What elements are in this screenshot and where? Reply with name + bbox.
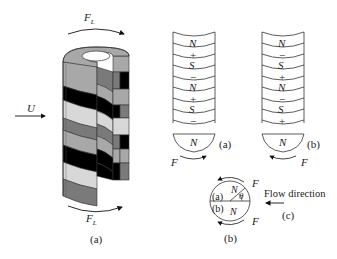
lift-force-bottom-arrow: [68, 206, 122, 212]
circle-lower-tag: (b): [212, 203, 224, 214]
figure-b-caption: (b): [224, 233, 237, 244]
stack-a-pole-label: S: [189, 60, 195, 71]
circle-force-top-label: F: [252, 178, 259, 189]
stack-a-caption: (a): [219, 139, 231, 150]
stack-b-caption: (b): [307, 139, 320, 150]
stack-b-pole-label: N: [278, 38, 285, 49]
stack-b-pole-label: S: [278, 104, 284, 115]
circle-lower-pole: N: [230, 206, 237, 217]
stack-b-bottom-pole: N: [279, 137, 286, 148]
circle-upper-tag: (a): [212, 191, 223, 202]
stack-b-sign-label: +: [279, 116, 285, 127]
stack-b-pole-label: S: [278, 60, 284, 71]
stack-a-force-label: F: [171, 157, 178, 168]
flow-direction-label: Flow direction: [264, 188, 326, 199]
stack-a-pole-label: N: [189, 82, 196, 93]
stack-a-sign-label: −: [190, 116, 196, 127]
stack-a-pole-label: N: [189, 38, 196, 49]
stack-a-bottom-pole: N: [190, 137, 197, 148]
stack-a-pole-label: S: [189, 104, 195, 115]
angle-theta-label: θ: [239, 191, 243, 202]
lift-force-top-label: FL: [84, 12, 95, 28]
cylinder: [63, 47, 129, 206]
figure-a-caption: (a): [90, 234, 102, 245]
circle-upper-pole: N: [231, 184, 238, 195]
stack-b-pole-label: N: [278, 82, 285, 93]
flow-velocity-label: U: [27, 103, 35, 114]
stack-b-force-label: F: [301, 157, 308, 168]
circle-force-bottom-label: F: [252, 216, 259, 227]
lift-force-top-arrow: [68, 29, 124, 34]
flow-caption: (c): [282, 210, 294, 221]
lift-force-bottom-label: FL: [86, 213, 97, 229]
